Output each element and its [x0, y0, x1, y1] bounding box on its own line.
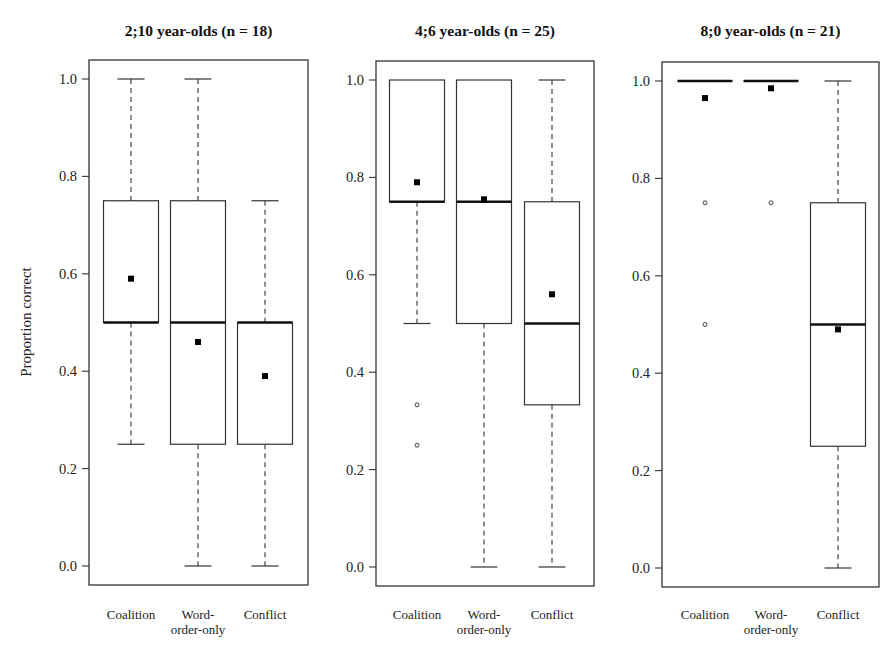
- y-tick-label: 0.6: [59, 266, 77, 282]
- panel-2: 4;6 year-olds (n = 25)0.00.20.40.60.81.0…: [346, 22, 594, 637]
- y-tick-label: 0.2: [59, 461, 77, 477]
- chart-canvas: Proportion correct 2;10 year-olds (n = 1…: [0, 0, 896, 663]
- y-tick-label: 0.8: [346, 169, 364, 185]
- box-conflict: [238, 201, 293, 566]
- x-category-label: Conflict: [531, 607, 574, 622]
- x-category-label: order-only: [457, 622, 512, 637]
- y-tick-label: 0.4: [59, 363, 78, 379]
- x-category-label: Word-: [755, 607, 788, 622]
- mean-marker: [702, 95, 708, 101]
- y-tick-label: 0.0: [346, 559, 364, 575]
- mean-marker: [481, 196, 487, 202]
- box-coalition: [678, 81, 733, 327]
- y-tick-label: 1.0: [346, 72, 364, 88]
- x-category-label: Coalition: [393, 607, 442, 622]
- y-tick-label: 1.0: [632, 73, 650, 89]
- x-category-label: order-only: [744, 622, 799, 637]
- outlier-point: [769, 201, 773, 205]
- panels-group: 2;10 year-olds (n = 18)0.00.20.40.60.81.…: [59, 22, 879, 637]
- panel-1: 2;10 year-olds (n = 18)0.00.20.40.60.81.…: [59, 22, 308, 637]
- mean-marker: [128, 276, 134, 282]
- panel-3: 8;0 year-olds (n = 21)0.00.20.40.60.81.0…: [632, 22, 879, 637]
- figure-boxplots-proportion-correct: Proportion correct 2;10 year-olds (n = 1…: [0, 0, 896, 663]
- y-tick-label: 0.2: [632, 463, 650, 479]
- mean-marker: [835, 326, 841, 332]
- y-tick-label: 0.2: [346, 462, 364, 478]
- box-word-order-only: [171, 79, 226, 566]
- x-category-label: Coalition: [681, 607, 730, 622]
- y-axis-label: Proportion correct: [18, 266, 34, 376]
- box-word-order-only: [744, 81, 799, 205]
- box-conflict: [525, 80, 580, 567]
- y-tick-label: 0.0: [632, 560, 650, 576]
- box-coalition: [390, 80, 445, 447]
- outlier-point: [703, 201, 707, 205]
- iqr-box: [104, 201, 159, 323]
- y-tick-label: 1.0: [59, 71, 77, 87]
- x-category-label: Coalition: [107, 607, 156, 622]
- y-tick-label: 0.0: [59, 558, 77, 574]
- x-category-label: order-only: [171, 622, 226, 637]
- y-tick-label: 0.4: [346, 364, 365, 380]
- y-tick-label: 0.6: [346, 267, 364, 283]
- iqr-box: [238, 323, 293, 445]
- panel-title: 4;6 year-olds (n = 25): [415, 22, 555, 40]
- iqr-box: [525, 202, 580, 405]
- panel-title: 8;0 year-olds (n = 21): [701, 22, 841, 40]
- y-tick-label: 0.8: [59, 168, 77, 184]
- box-word-order-only: [457, 80, 512, 567]
- x-category-label: Conflict: [244, 607, 287, 622]
- mean-marker: [549, 291, 555, 297]
- outlier-point: [415, 403, 419, 407]
- x-category-label: Word-: [468, 607, 501, 622]
- y-tick-label: 0.8: [632, 170, 650, 186]
- x-category-label: Word-: [182, 607, 215, 622]
- x-category-label: Conflict: [817, 607, 860, 622]
- mean-marker: [195, 339, 201, 345]
- outlier-point: [415, 443, 419, 447]
- y-tick-label: 0.4: [632, 365, 651, 381]
- box-coalition: [104, 79, 159, 444]
- panel-title: 2;10 year-olds (n = 18): [125, 22, 273, 40]
- mean-marker: [414, 179, 420, 185]
- box-conflict: [811, 81, 866, 568]
- mean-marker: [768, 85, 774, 91]
- y-tick-label: 0.6: [632, 268, 650, 284]
- outlier-point: [703, 323, 707, 327]
- mean-marker: [262, 373, 268, 379]
